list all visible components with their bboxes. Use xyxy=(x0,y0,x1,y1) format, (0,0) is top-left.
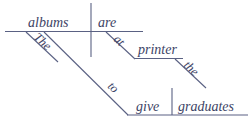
word-verb: are xyxy=(98,15,116,30)
word-preposition: at xyxy=(111,32,128,49)
word-prep-object: printer xyxy=(137,42,177,57)
sentence-diagram: albums are The at printer the to give gr… xyxy=(0,0,249,127)
word-infinitive-object: graduates xyxy=(178,99,235,114)
word-infinitive-marker: to xyxy=(105,79,122,96)
word-subject-modifier: The xyxy=(31,30,55,53)
word-prep-object-modifier: the xyxy=(181,58,202,79)
word-subject: albums xyxy=(28,15,69,30)
word-infinitive-verb: give xyxy=(136,99,159,114)
diagram-canvas: albums are The at printer the to give gr… xyxy=(0,0,249,127)
